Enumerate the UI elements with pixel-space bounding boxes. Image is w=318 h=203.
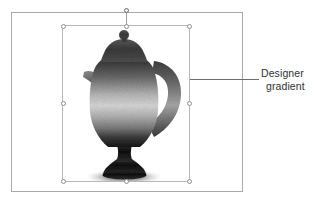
resize-handle-top-left[interactable] — [61, 24, 66, 29]
resize-handle-middle-left[interactable] — [61, 101, 66, 106]
callout-label-line-2: gradient — [261, 80, 317, 93]
resize-handle-top-center[interactable] — [124, 24, 129, 29]
callout-label: Designer gradient — [261, 67, 317, 93]
callout-label-line-1: Designer — [261, 67, 317, 80]
selection-frame[interactable] — [62, 25, 190, 182]
resize-handle-middle-right[interactable] — [187, 101, 192, 106]
resize-handle-top-right[interactable] — [187, 24, 192, 29]
rotate-handle[interactable] — [124, 8, 129, 13]
resize-handle-bottom-left[interactable] — [61, 179, 66, 184]
resize-handle-bottom-center[interactable] — [124, 179, 129, 184]
callout-leader-line — [190, 79, 259, 80]
resize-handle-bottom-right[interactable] — [187, 179, 192, 184]
screenshot-root: Designer gradient — [0, 0, 318, 203]
